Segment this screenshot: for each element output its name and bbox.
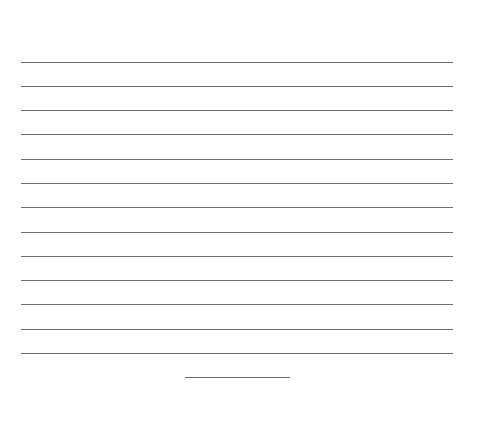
ruled-line <box>21 62 453 63</box>
ruled-line <box>21 183 453 184</box>
lined-page <box>0 0 477 435</box>
ruled-line <box>21 304 453 305</box>
short-line <box>185 377 290 378</box>
ruled-line <box>21 134 453 135</box>
ruled-line <box>21 353 453 354</box>
ruled-line <box>21 232 453 233</box>
ruled-line <box>21 329 453 330</box>
ruled-line <box>21 256 453 257</box>
ruled-line <box>21 86 453 87</box>
ruled-line <box>21 207 453 208</box>
ruled-line <box>21 159 453 160</box>
ruled-line <box>21 280 453 281</box>
ruled-line <box>21 110 453 111</box>
